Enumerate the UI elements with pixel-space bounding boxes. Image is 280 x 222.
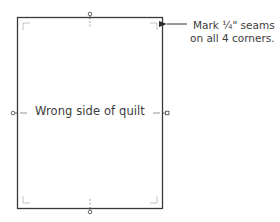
callout-line-2: on all 4 corners. — [190, 32, 275, 45]
quilt-label: Wrong side of quilt — [17, 104, 163, 118]
callout-text: Mark ¼" seams on all 4 corners. — [190, 19, 275, 45]
callout-line-1: Mark ¼" seams — [190, 19, 275, 32]
